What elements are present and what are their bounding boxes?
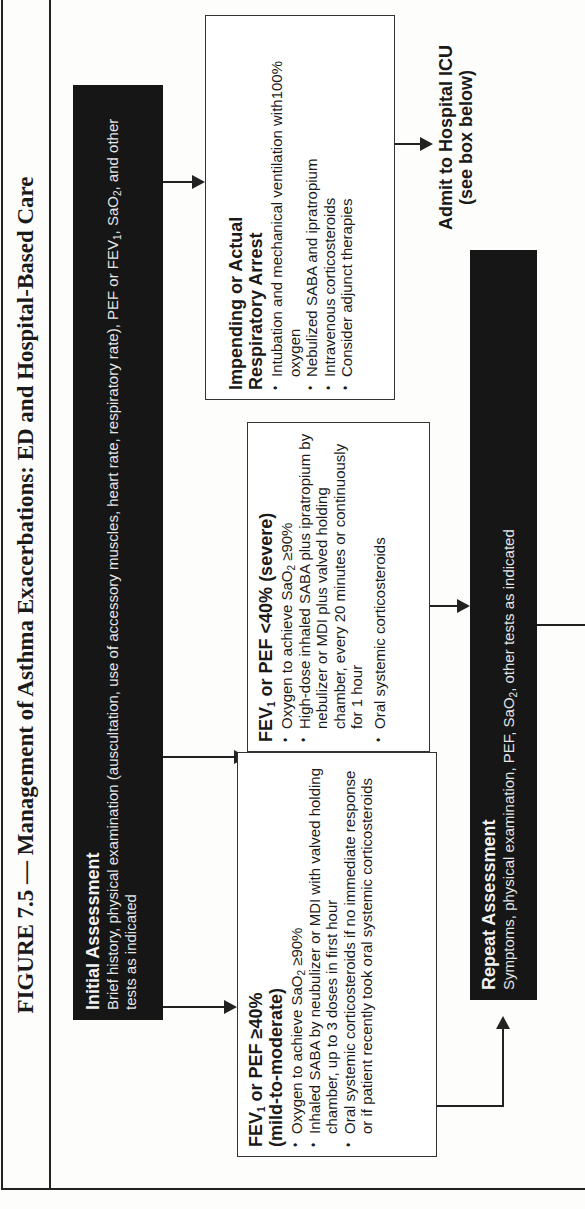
connector-mild-across <box>502 1028 504 1107</box>
mild-heading: FEV1 or PEF ≥40% <box>246 762 266 1147</box>
list-item: Nebulized SABA and ipratropium <box>303 25 321 390</box>
arrow-down-icon <box>192 175 205 189</box>
list-item: Oxygen to achieve SaO2 ≥90% <box>278 432 296 742</box>
list-item: Oral systemic corticosteroids if no imme… <box>341 762 376 1147</box>
list-item: Inhaled SABA by neubulizer or MDI with v… <box>306 762 341 1147</box>
arrow-down-icon <box>420 137 433 151</box>
respiratory-arrest-box: Impending or Actual Respiratory Arrest I… <box>205 15 395 400</box>
list-item: Oral systemic corticosteroids <box>371 432 389 742</box>
title-band: FIGURE 7.5 — Management of Asthma Exacer… <box>2 0 50 1190</box>
mild-to-moderate-box: FEV1 or PEF ≥40% (mild-to-moderate) Oxyg… <box>237 752 437 1157</box>
initial-assessment-heading: Initial Assessment <box>83 95 104 1010</box>
severe-box: FEV1 or PEF <40% (severe) Oxygen to achi… <box>247 422 430 752</box>
arrest-heading-line2: Respiratory Arrest <box>246 25 266 390</box>
list-item: Intubation and mechanical ventilation wi… <box>268 25 303 390</box>
connector-mild-down <box>437 1105 503 1107</box>
figure-title: FIGURE 7.5 — Management of Asthma Exacer… <box>13 176 39 1013</box>
connector-to-admit <box>395 143 421 145</box>
arrest-treatment-list: Intubation and mechanical ventilation wi… <box>268 25 356 390</box>
arrest-heading-line1: Impending or Actual <box>226 25 246 390</box>
connector-repeat-out <box>537 624 585 626</box>
list-item: Consider adjunct therapies <box>338 25 356 390</box>
initial-assessment-box: Initial Assessment Brief history, physic… <box>73 85 163 1020</box>
repeat-assessment-heading: Repeat Assessment <box>479 260 500 990</box>
severe-treatment-list: Oxygen to achieve SaO2 ≥90% High-dose in… <box>278 432 388 742</box>
figure-canvas: FIGURE 7.5 — Management of Asthma Exacer… <box>0 0 585 1209</box>
connector-severe-to-repeat <box>430 605 458 607</box>
connector-to-arrest <box>163 181 193 183</box>
initial-assessment-body: Brief history, physical examination (aus… <box>104 95 140 1010</box>
mild-treatment-list: Oxygen to achieve SaO2 ≥90% Inhaled SABA… <box>288 762 376 1147</box>
arrow-down-icon <box>457 599 470 613</box>
severe-heading: FEV1 or PEF <40% (severe) <box>256 432 276 742</box>
admit-icu-label: Admit to Hospital ICU (see box below) <box>436 15 476 260</box>
mild-heading-severity: (mild-to-moderate) <box>266 762 286 1147</box>
repeat-assessment-body: Symptoms, physical examination, PEF, SaO… <box>500 260 518 990</box>
list-item: High-dose inhaled SABA plus ipratropium … <box>296 432 366 742</box>
list-item: Intravenous corticosteroids <box>321 25 339 390</box>
connector-to-mild <box>163 1006 225 1008</box>
repeat-assessment-box: Repeat Assessment Symptoms, physical exa… <box>470 250 537 1000</box>
frame-left-border <box>1 1188 585 1190</box>
list-item: Oxygen to achieve SaO2 ≥90% <box>288 762 306 1147</box>
connector-to-severe <box>163 756 235 758</box>
arrow-right-icon <box>496 1016 510 1029</box>
arrow-down-icon <box>224 1000 237 1014</box>
